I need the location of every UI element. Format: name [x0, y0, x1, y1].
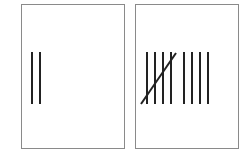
- tally-card-nine: [135, 4, 239, 149]
- tally-card-two: [21, 4, 125, 149]
- tally-marks-two: [22, 5, 126, 150]
- tally-marks-nine: [136, 5, 240, 150]
